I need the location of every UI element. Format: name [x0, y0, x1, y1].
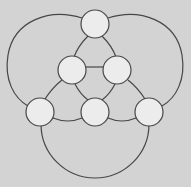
edge-midleft-bottomcenter — [75, 84, 88, 100]
node-mid-right — [103, 56, 131, 84]
edge-midleft-bottomleft — [45, 80, 62, 99]
graph-diagram — [0, 0, 191, 187]
node-mid-left — [58, 56, 86, 84]
edge-bottomcenter-bottomright — [108, 118, 136, 121]
nodes — [26, 10, 163, 126]
edge-outer-bottom-arc — [41, 124, 149, 178]
edge-bottomleft-bottomcenter — [53, 118, 82, 121]
edge-top-midright — [102, 36, 116, 57]
node-top — [81, 10, 109, 38]
node-bottom-left — [26, 98, 54, 126]
edges — [7, 15, 183, 178]
edge-midright-bottomcenter — [102, 84, 115, 100]
edge-top-midleft — [74, 36, 88, 57]
node-bottom-center — [81, 98, 109, 126]
node-bottom-right — [135, 98, 163, 126]
edge-midright-bottomright — [128, 80, 145, 99]
